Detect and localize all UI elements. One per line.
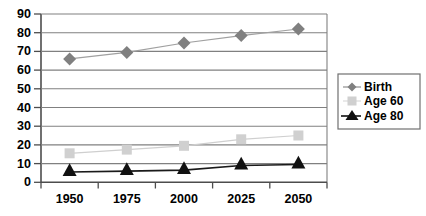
y-tick-label-90: 90 (17, 7, 31, 21)
data-point-age60-1950 (65, 148, 75, 158)
y-tick-label-40: 40 (17, 101, 31, 115)
y-tick-label-20: 20 (17, 138, 31, 152)
y-tick-label-30: 30 (17, 119, 31, 133)
y-tick-label-60: 60 (17, 63, 31, 77)
y-tick-labels: 90 80 70 60 50 40 30 20 10 0 (17, 7, 31, 189)
y-tick-marks (34, 14, 41, 182)
y-tick-label-10: 10 (17, 157, 31, 171)
x-tick-label-1950: 1950 (56, 192, 84, 206)
chart-legend: Birth Age 60 Age 80 (338, 74, 420, 129)
data-point-age60-1975 (122, 145, 132, 155)
data-point-birth-1975 (120, 46, 133, 59)
line-chart: 90 80 70 60 50 40 30 20 10 0 (0, 0, 426, 216)
y-tick-label-70: 70 (17, 44, 31, 58)
x-tick-label-2025: 2025 (227, 192, 255, 206)
x-tick-label-2000: 2000 (170, 192, 198, 206)
data-point-age60-2025 (236, 134, 246, 144)
data-point-age60-2000 (179, 141, 189, 151)
y-tick-label-80: 80 (17, 26, 31, 40)
data-point-birth-2000 (178, 37, 191, 50)
series-birth (63, 23, 305, 66)
legend-label-birth: Birth (364, 80, 392, 94)
chart-canvas: 90 80 70 60 50 40 30 20 10 0 (0, 0, 426, 216)
x-tick-label-2050: 2050 (284, 192, 312, 206)
legend-label-age80: Age 80 (364, 109, 404, 123)
data-point-age80-1975 (120, 162, 134, 175)
x-axis-group: 1950 1975 2000 2025 2050 (41, 182, 327, 206)
data-point-birth-2025 (235, 29, 248, 42)
data-point-birth-2050 (292, 23, 305, 36)
legend-marker-square-icon (348, 97, 357, 106)
data-point-birth-1950 (63, 52, 76, 65)
y-tick-label-0: 0 (24, 175, 31, 189)
data-point-age60-2050 (293, 131, 303, 141)
y-axis-group: 90 80 70 60 50 40 30 20 10 0 (17, 7, 41, 189)
data-point-age80-1950 (63, 163, 77, 176)
legend-label-age60: Age 60 (364, 94, 404, 108)
series-age80 (63, 156, 306, 176)
y-tick-label-50: 50 (17, 82, 31, 96)
x-tick-label-1975: 1975 (113, 192, 141, 206)
data-point-age80-2050 (291, 156, 305, 169)
